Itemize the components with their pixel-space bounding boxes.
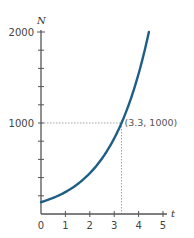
- x-tick-label: 1: [62, 220, 68, 231]
- guide-lines: [41, 123, 122, 214]
- x-axis-label: t: [171, 208, 176, 219]
- y-tick-label: 2000: [9, 27, 34, 38]
- y-axis-label: N: [36, 15, 47, 26]
- x-tick-label: 4: [135, 220, 141, 231]
- x-tick-label: 5: [160, 220, 166, 231]
- x-tick-label: 2: [87, 220, 93, 231]
- chart: 01234510002000 t N (3.3, 1000): [0, 0, 194, 238]
- x-tick-label: 0: [38, 220, 44, 231]
- annotation-label: (3.3, 1000): [125, 117, 178, 128]
- x-tick-label: 3: [111, 220, 117, 231]
- y-tick-label: 1000: [9, 118, 34, 129]
